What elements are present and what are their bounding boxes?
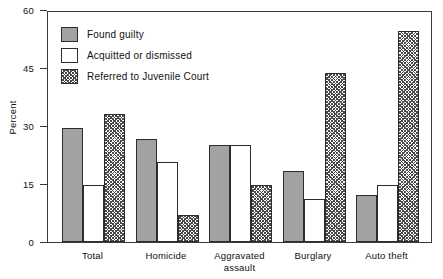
bar [325, 73, 346, 242]
bar-chart: Percent 015304560 TotalHomicideAggravate… [0, 0, 443, 279]
y-axis-tick [40, 126, 47, 127]
bar [251, 185, 272, 242]
legend-label: Acquitted or dismissed [87, 50, 192, 61]
y-axis-tick [40, 242, 47, 243]
y-axis-tick [40, 10, 47, 11]
legend-label: Referred to Juvenile Court [87, 71, 209, 82]
x-axis-group-label-line: assault [190, 262, 290, 274]
bar [104, 114, 125, 242]
y-axis-tick [40, 68, 47, 69]
y-axis-tick-label: 30 [6, 121, 34, 132]
bar [304, 199, 325, 242]
bar [62, 128, 83, 242]
x-axis-group-label: Auto theft [337, 250, 437, 262]
y-axis-title: Percent [7, 88, 18, 148]
legend-item: Referred to Juvenile Court [61, 66, 209, 86]
bar [377, 185, 398, 242]
bar [209, 145, 230, 242]
legend-swatch-hatch [61, 69, 78, 84]
y-axis-tick-label: 60 [6, 5, 34, 16]
legend-swatch-solid [61, 27, 78, 42]
x-axis-group-label-line: Auto theft [337, 250, 437, 262]
y-axis-tick [40, 184, 47, 185]
y-axis-tick-label: 0 [6, 237, 34, 248]
bar [356, 195, 377, 242]
bar [136, 139, 157, 242]
y-axis-tick-label: 15 [6, 179, 34, 190]
bar [398, 31, 419, 242]
legend-item: Found guilty [61, 24, 209, 44]
legend-swatch-open [61, 48, 78, 63]
bar [83, 185, 104, 242]
bar [157, 162, 178, 242]
legend-item: Acquitted or dismissed [61, 45, 209, 65]
bar [230, 145, 251, 242]
bar [283, 171, 304, 242]
y-axis-tick-label: 45 [6, 63, 34, 74]
legend-label: Found guilty [87, 29, 144, 40]
bar [178, 215, 199, 242]
chart-legend: Found guiltyAcquitted or dismissedReferr… [61, 24, 209, 87]
